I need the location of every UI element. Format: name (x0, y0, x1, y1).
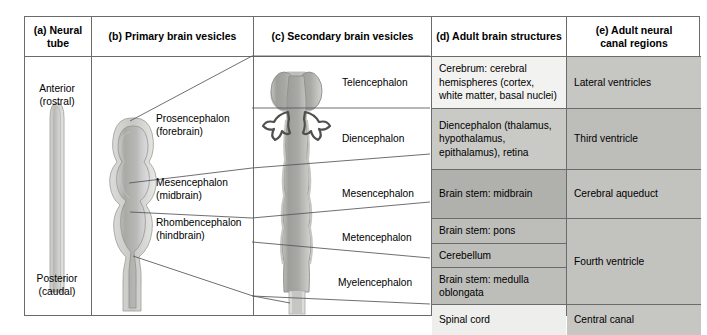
primary-vesicle-label-mesencephalon: Mesencephalon (midbrain) (156, 176, 256, 203)
column-header-e: (e) Adult neural canal regions (567, 17, 701, 56)
column-header-a: (a) Neural tube (25, 17, 91, 56)
adult-structure-cell-medulla: Brain stem: medulla oblongata (432, 268, 566, 304)
neural-tube-anterior-line2: (rostral) (39, 96, 74, 107)
primary-vesicle-rhombencephalon-line1: Rhombencephalon (156, 217, 242, 228)
canal-region-cell-lateral-ventricles: Lateral ventricles (567, 57, 701, 108)
canal-region-label-third-ventricle: Third ventricle (574, 132, 638, 145)
brain-development-table: (a) Neural tube (b) Primary brain vesicl… (24, 16, 700, 316)
primary-vesicle-mesencephalon-line2: (midbrain) (156, 190, 202, 201)
row-rule-d-6 (432, 304, 566, 305)
neural-tube-posterior-line2: (caudal) (39, 286, 76, 297)
row-rule-e-2 (567, 169, 701, 170)
primary-vesicle-mesencephalon-line1: Mesencephalon (156, 177, 228, 188)
neural-tube-anterior-label: Anterior (rostral) (26, 82, 88, 109)
adult-structure-cell-cerebellum: Cerebellum (432, 244, 566, 267)
column-header-b-label: (b) Primary brain vesicles (109, 30, 237, 43)
adult-structure-label-midbrain: Brain stem: midbrain (439, 187, 532, 200)
adult-structure-cell-spinal-cord: Spinal cord (432, 305, 566, 335)
canal-region-cell-cerebral-aqueduct: Cerebral aqueduct (567, 170, 701, 218)
adult-structure-label-medulla: Brain stem: medulla oblongata (439, 273, 559, 300)
column-header-d-label: (d) Adult brain structures (436, 30, 562, 43)
adult-structure-cell-cerebrum: Cerebrum: cerebral hemispheres (cortex, … (432, 57, 566, 108)
secondary-vesicle-cell-myelencephalon: Myelencephalon (331, 262, 431, 304)
column-header-e-line1: (e) Adult neural (596, 24, 673, 36)
secondary-vesicle-label-mesencephalon: Mesencephalon (342, 187, 414, 200)
primary-vesicle-label-prosencephalon: Prosencephalon (forebrain) (156, 112, 256, 139)
secondary-vesicle-label-myelencephalon: Myelencephalon (338, 276, 412, 289)
canal-region-label-central-canal: Central canal (574, 313, 634, 326)
adult-structure-label-pons: Brain stem: pons (439, 224, 515, 237)
row-rule-d-4 (432, 243, 566, 244)
secondary-vesicle-cell-telencephalon: Telencephalon (335, 57, 431, 108)
canal-region-cell-third-ventricle: Third ventricle (567, 109, 701, 169)
column-header-d: (d) Adult brain structures (432, 17, 566, 56)
adult-structure-cell-pons: Brain stem: pons (432, 219, 566, 243)
neural-tube-posterior-line1: Posterior (37, 273, 78, 284)
primary-vesicle-prosencephalon-line2: (forebrain) (156, 126, 203, 137)
canal-region-label-cerebral-aqueduct: Cerebral aqueduct (574, 187, 658, 200)
column-header-c-label: (c) Secondary brain vesicles (272, 30, 414, 43)
secondary-vesicle-cell-mesencephalon: Mesencephalon (335, 170, 431, 218)
row-rule-e-1 (567, 108, 701, 109)
canal-region-cell-fourth-ventricle: Fourth ventricle (567, 219, 701, 304)
primary-vesicle-rhombencephalon-line2: (hindbrain) (156, 230, 205, 241)
secondary-vesicle-label-diencephalon: Diencephalon (342, 132, 404, 145)
secondary-vesicle-label-telencephalon: Telencephalon (342, 76, 408, 89)
adult-structure-label-cerebrum: Cerebrum: cerebral hemispheres (cortex, … (439, 62, 559, 102)
canal-region-label-fourth-ventricle: Fourth ventricle (574, 255, 644, 268)
adult-structure-cell-midbrain: Brain stem: midbrain (432, 170, 566, 218)
column-divider-b-c (253, 17, 254, 315)
primary-vesicle-label-rhombencephalon: Rhombencephalon (hindbrain) (156, 216, 266, 243)
column-divider-a-b (91, 17, 92, 315)
column-header-a-line1: (a) Neural (34, 24, 82, 36)
column-header-c: (c) Secondary brain vesicles (254, 17, 431, 56)
row-rule-d-3 (432, 218, 566, 219)
neural-tube-anterior-line1: Anterior (39, 83, 75, 94)
canal-region-cell-central-canal: Central canal (567, 305, 701, 335)
adult-structure-label-diencephalon: Diencephalon (thalamus, hypothalamus, ep… (439, 119, 559, 159)
secondary-vesicle-cell-diencephalon: Diencephalon (335, 109, 431, 169)
adult-structure-label-spinal-cord: Spinal cord (439, 313, 490, 326)
adult-structure-label-cerebellum: Cerebellum (439, 249, 491, 262)
row-rule-e-3 (567, 218, 701, 219)
secondary-vesicle-cell-metencephalon: Metencephalon (335, 219, 431, 257)
canal-region-label-lateral-ventricles: Lateral ventricles (574, 76, 651, 89)
row-rule-d-2 (432, 169, 566, 170)
row-rule-d-1 (432, 108, 566, 109)
primary-vesicle-prosencephalon-line1: Prosencephalon (156, 113, 230, 124)
column-header-a-line2: tube (47, 37, 69, 49)
adult-structure-cell-diencephalon: Diencephalon (thalamus, hypothalamus, ep… (432, 109, 566, 169)
neural-tube-posterior-label: Posterior (caudal) (26, 272, 88, 299)
row-rule-e-4 (567, 304, 701, 305)
column-header-e-line2: canal regions (600, 37, 668, 49)
secondary-vesicle-label-metencephalon: Metencephalon (342, 231, 412, 244)
row-rule-d-5 (432, 267, 566, 268)
column-header-b: (b) Primary brain vesicles (92, 17, 253, 56)
